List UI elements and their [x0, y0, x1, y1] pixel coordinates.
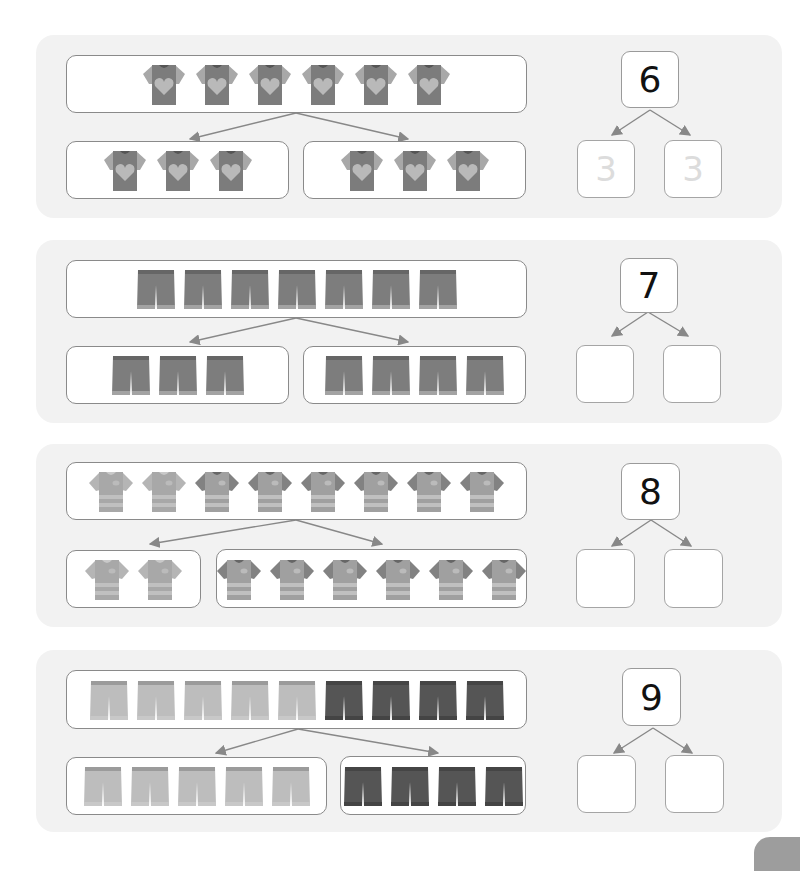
shorts-icon — [130, 764, 170, 808]
right-answer-box[interactable] — [663, 345, 721, 403]
shorts-icon — [324, 678, 364, 722]
striped-tshirt-icon — [300, 469, 346, 513]
shorts-icon — [418, 267, 458, 311]
left-answer-box[interactable]: 3 — [577, 140, 635, 198]
right-group-box — [216, 549, 527, 608]
all-items-box — [66, 670, 527, 729]
striped-tshirt-icon — [194, 469, 240, 513]
shorts-icon — [183, 678, 223, 722]
heart-tshirt-icon — [339, 148, 385, 192]
striped-tshirt-icon — [459, 469, 505, 513]
all-items-box — [66, 462, 527, 520]
shorts-icon — [177, 764, 217, 808]
shorts-icon — [224, 764, 264, 808]
striped-tshirt-icon — [137, 557, 183, 601]
bond-panel-6: 6 3 3 — [36, 35, 782, 218]
striped-tshirt-icon — [428, 557, 474, 601]
shorts-icon — [418, 353, 458, 397]
striped-tshirt-icon — [216, 557, 262, 601]
shorts-icon — [465, 353, 505, 397]
striped-tshirt-icon — [353, 469, 399, 513]
shorts-icon — [324, 353, 364, 397]
striped-tshirt-icon — [141, 469, 187, 513]
right-answer-box[interactable] — [665, 755, 724, 813]
striped-tshirt-icon — [406, 469, 452, 513]
left-group-box — [66, 550, 201, 608]
bond-panel-7: 7 — [36, 240, 782, 423]
shorts-icon — [418, 678, 458, 722]
shorts-icon — [484, 764, 524, 808]
shorts-icon — [205, 353, 245, 397]
shorts-icon — [343, 764, 383, 808]
right-group-box — [303, 346, 526, 404]
shorts-icon — [324, 267, 364, 311]
shorts-icon — [136, 678, 176, 722]
left-answer-box[interactable] — [576, 549, 635, 608]
bond-panel-9: 9 — [36, 650, 782, 832]
shorts-icon — [371, 678, 411, 722]
striped-tshirt-icon — [269, 557, 315, 601]
total-number: 8 — [621, 463, 680, 520]
left-group-box — [66, 757, 327, 815]
striped-tshirt-icon — [322, 557, 368, 601]
striped-tshirt-icon — [481, 557, 527, 601]
striped-tshirt-icon — [375, 557, 421, 601]
shorts-icon — [136, 267, 176, 311]
page-corner-tab — [754, 837, 800, 871]
bond-panel-8: 8 — [36, 444, 782, 627]
total-number: 7 — [620, 258, 678, 313]
heart-tshirt-icon — [194, 62, 240, 106]
heart-tshirt-icon — [102, 148, 148, 192]
shorts-icon — [277, 267, 317, 311]
all-items-box — [66, 55, 527, 113]
striped-tshirt-icon — [247, 469, 293, 513]
heart-tshirt-icon — [141, 62, 187, 106]
left-group-box — [66, 346, 289, 404]
heart-tshirt-icon — [247, 62, 293, 106]
heart-tshirt-icon — [392, 148, 438, 192]
heart-tshirt-icon — [445, 148, 491, 192]
left-answer-box[interactable] — [576, 345, 634, 403]
shorts-icon — [277, 678, 317, 722]
shorts-icon — [83, 764, 123, 808]
total-number: 6 — [621, 51, 679, 108]
left-answer-box[interactable] — [577, 755, 636, 813]
heart-tshirt-icon — [406, 62, 452, 106]
right-answer-box[interactable]: 3 — [664, 140, 722, 198]
shorts-icon — [158, 353, 198, 397]
shorts-icon — [230, 678, 270, 722]
heart-tshirt-icon — [353, 62, 399, 106]
right-group-box — [340, 756, 526, 815]
shorts-icon — [371, 353, 411, 397]
shorts-icon — [183, 267, 223, 311]
striped-tshirt-icon — [84, 557, 130, 601]
all-items-box — [66, 260, 527, 318]
shorts-icon — [437, 764, 477, 808]
shorts-icon — [390, 764, 430, 808]
shorts-icon — [230, 267, 270, 311]
total-number: 9 — [622, 668, 681, 726]
heart-tshirt-icon — [155, 148, 201, 192]
shorts-icon — [111, 353, 151, 397]
shorts-icon — [371, 267, 411, 311]
shorts-icon — [271, 764, 311, 808]
shorts-icon — [465, 678, 505, 722]
left-group-box — [66, 141, 289, 199]
heart-tshirt-icon — [300, 62, 346, 106]
shorts-icon — [89, 678, 129, 722]
heart-tshirt-icon — [208, 148, 254, 192]
right-answer-box[interactable] — [664, 549, 723, 608]
striped-tshirt-icon — [88, 469, 134, 513]
right-group-box — [303, 141, 526, 199]
